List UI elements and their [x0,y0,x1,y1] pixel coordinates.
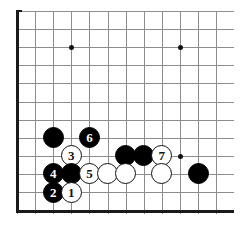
move-number-label: 2 [44,183,63,202]
board-grid [0,0,249,230]
stone-move-6: 6 [79,127,100,148]
grid-line-horizontal [17,83,234,84]
grid-line-horizontal [17,120,234,121]
star-point [69,45,74,50]
move-number-label: 6 [80,128,99,147]
grid-line-horizontal [17,29,234,30]
grid-line-vertical [180,11,181,214]
stone-black [188,163,209,184]
board-edge-top [16,10,22,12]
grid-line-horizontal [17,11,234,12]
star-point [178,45,183,50]
stone-move-1: 1 [61,182,82,203]
grid-line-vertical [144,11,145,214]
go-board-diagram: 6374521 [0,0,249,230]
grid-line-vertical [216,11,217,214]
board-edge-bottom [16,210,234,213]
star-point [178,154,183,159]
stone-black [43,127,64,148]
move-number-label: 4 [44,164,63,183]
move-number-label: 1 [62,183,81,202]
grid-line-vertical [35,11,36,214]
grid-line-horizontal [17,65,234,66]
board-edge-left [16,10,19,213]
grid-line-horizontal [17,47,234,48]
grid-line-horizontal [17,102,234,103]
